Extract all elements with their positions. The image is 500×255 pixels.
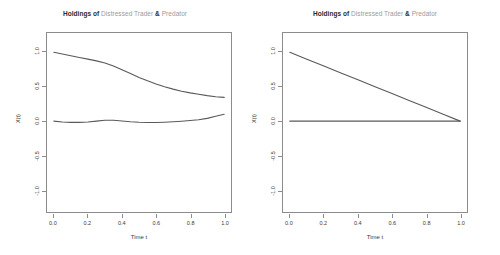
y-tick-label: 0.5 bbox=[34, 77, 40, 95]
y-tick-label: -1.0 bbox=[34, 182, 40, 200]
plot-title-series-b: Predator bbox=[162, 10, 187, 17]
x-tick-mark bbox=[122, 214, 123, 218]
x-tick-label: 0.0 bbox=[45, 220, 61, 227]
y-tick-label: -1.0 bbox=[270, 182, 276, 200]
plot-area-right bbox=[282, 32, 468, 213]
x-tick-label: 0.2 bbox=[79, 220, 95, 227]
y-tick-label: -0.5 bbox=[34, 147, 40, 165]
x-tick-label: 0.2 bbox=[315, 220, 331, 227]
series-line-distressed-trader bbox=[54, 52, 224, 97]
x-tick-mark bbox=[191, 214, 192, 218]
y-tick-label: 0.0 bbox=[34, 112, 40, 130]
x-tick-label: 0.0 bbox=[281, 220, 297, 227]
x-axis-label-left: Time t bbox=[109, 233, 169, 241]
y-tick-label: 1.0 bbox=[270, 42, 276, 60]
plot-area-left bbox=[46, 32, 232, 213]
x-tick-mark bbox=[323, 214, 324, 218]
plot-title-prefix: Holdings of bbox=[313, 10, 351, 17]
x-tick-label: 0.6 bbox=[384, 220, 400, 227]
x-tick-mark bbox=[53, 214, 54, 218]
plot-title-prefix: Holdings of bbox=[63, 10, 101, 17]
series-line-distressed-trader bbox=[290, 52, 460, 121]
curves-left bbox=[47, 33, 231, 212]
x-tick-mark bbox=[358, 214, 359, 218]
x-tick-label: 0.8 bbox=[183, 220, 199, 227]
x-tick-label: 1.0 bbox=[217, 220, 233, 227]
x-tick-mark bbox=[461, 214, 462, 218]
plot-title-right: Holdings of Distressed Trader & Predator bbox=[250, 9, 500, 18]
x-tick-label: 0.8 bbox=[419, 220, 435, 227]
series-line-predator bbox=[54, 114, 224, 122]
x-tick-label: 0.4 bbox=[350, 220, 366, 227]
x-tick-label: 0.4 bbox=[114, 220, 130, 227]
x-tick-mark bbox=[225, 214, 226, 218]
x-axis-label-right: Time t bbox=[345, 233, 405, 241]
x-tick-mark bbox=[156, 214, 157, 218]
x-tick-label: 1.0 bbox=[453, 220, 469, 227]
plot-title-series-a: Distressed Trader bbox=[101, 10, 153, 17]
x-tick-mark bbox=[289, 214, 290, 218]
x-tick-label: 0.6 bbox=[148, 220, 164, 227]
x-tick-mark bbox=[427, 214, 428, 218]
y-axis-label-right: X(t) bbox=[251, 104, 258, 134]
plot-title-series-a: Distressed Trader bbox=[351, 10, 403, 17]
y-axis-label-left: X(t) bbox=[15, 104, 22, 134]
plot-title-series-b: Predator bbox=[412, 10, 437, 17]
y-tick-label: 1.0 bbox=[34, 42, 40, 60]
curves-right bbox=[283, 33, 467, 212]
plot-title-conjunction: & bbox=[153, 10, 161, 17]
plot-panel-right: Holdings of Distressed Trader & Predator… bbox=[250, 0, 500, 255]
plot-panel-left: Holdings of Distressed Trader & Predator… bbox=[0, 0, 250, 255]
plot-title-left: Holdings of Distressed Trader & Predator bbox=[0, 9, 250, 18]
x-tick-mark bbox=[87, 214, 88, 218]
y-tick-label: 0.5 bbox=[270, 77, 276, 95]
y-tick-label: 0.0 bbox=[270, 112, 276, 130]
figure-panels: Holdings of Distressed Trader & Predator… bbox=[0, 0, 500, 255]
plot-title-conjunction: & bbox=[403, 10, 411, 17]
x-tick-mark bbox=[392, 214, 393, 218]
y-tick-label: -0.5 bbox=[270, 147, 276, 165]
